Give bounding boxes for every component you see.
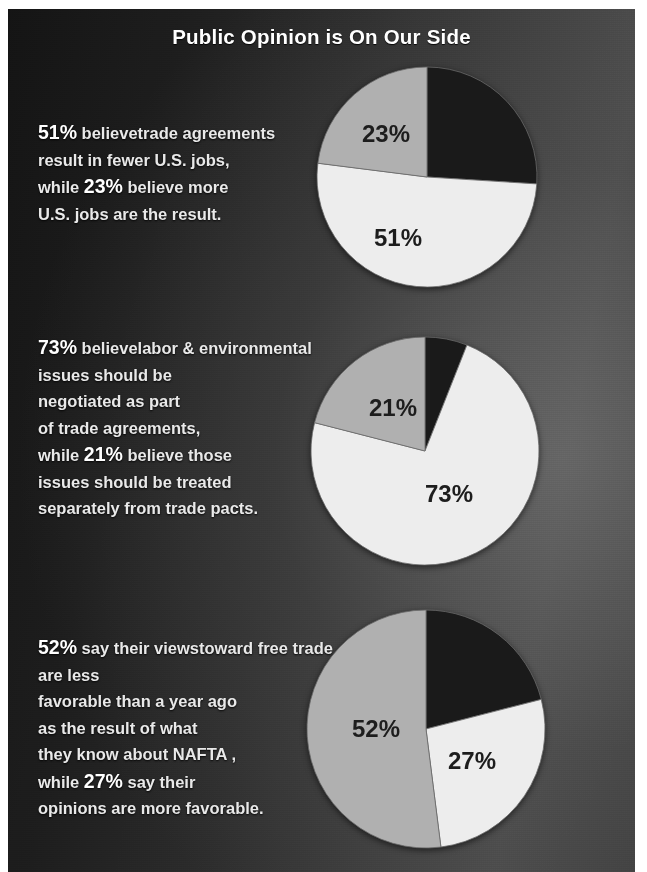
- pie-chart-1-svg: 51% 23%: [314, 64, 540, 290]
- blurb-2-mid-percent: 21%: [84, 443, 123, 465]
- pie-3-label-gray: 52%: [352, 715, 400, 742]
- pie-chart-1-slices: [317, 67, 537, 287]
- statistic-blurb-1: 51% believetrade agreements result in fe…: [38, 119, 330, 227]
- blurb-1-mid-percent: 23%: [84, 175, 123, 197]
- pie-chart-3-slices: [307, 610, 545, 848]
- statistic-blurb-2: 73% believelabor & environmental issues …: [38, 334, 350, 522]
- blurb-1-lead-percent: 51%: [38, 121, 77, 143]
- pie-1-slice-dark: [427, 67, 537, 184]
- pie-3-label-white: 27%: [448, 747, 496, 774]
- poster-canvas: Public Opinion is On Our Side 51% believ…: [8, 9, 635, 872]
- blurb-3-mid-percent: 27%: [84, 770, 123, 792]
- blurb-3-lead-percent: 52%: [38, 636, 77, 658]
- pie-1-label-gray: 23%: [362, 120, 410, 147]
- pie-chart-3-svg: 52% 27%: [304, 607, 548, 851]
- pie-2-label-gray: 21%: [369, 394, 417, 421]
- blurb-3-body: toward free trade are less favorable tha…: [38, 639, 333, 791]
- pie-chart-3: 52% 27%: [304, 607, 548, 851]
- pie-1-slice-white: [317, 163, 537, 287]
- blurb-1-lead-tail: believe: [77, 124, 138, 142]
- blurb-2-lead-tail: believe: [77, 339, 138, 357]
- blurb-3-lead-tail: say their views: [77, 639, 199, 657]
- pie-1-label-white: 51%: [374, 224, 422, 251]
- statistic-blurb-3: 52% say their viewstoward free trade are…: [38, 634, 338, 822]
- pie-chart-1: 51% 23%: [314, 64, 540, 290]
- pie-2-label-white: 73%: [425, 480, 473, 507]
- blurb-2-lead-percent: 73%: [38, 336, 77, 358]
- page-title: Public Opinion is On Our Side: [8, 25, 635, 49]
